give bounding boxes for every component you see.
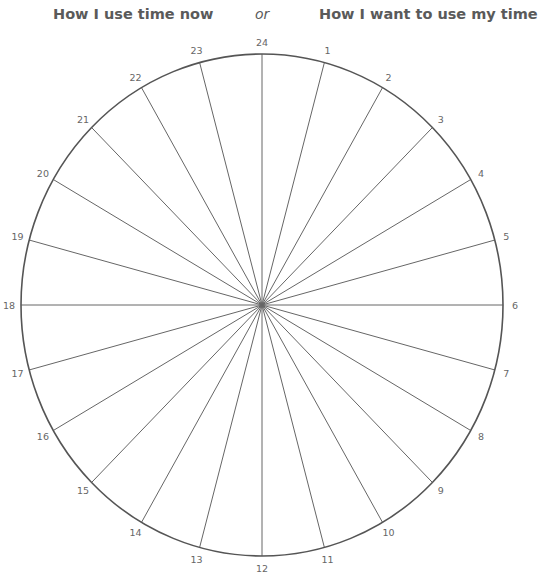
spoke-4 [262,180,471,306]
hour-label-24: 24 [256,37,268,48]
spoke-22 [142,88,263,305]
spoke-23 [200,63,262,305]
spoke-21 [92,128,262,305]
hour-label-9: 9 [438,485,444,496]
spoke-11 [262,305,324,547]
hour-label-7: 7 [503,368,509,379]
spoke-10 [262,305,383,522]
hour-label-17: 17 [12,368,24,379]
spoke-17 [29,305,262,370]
hour-label-23: 23 [190,45,202,56]
hour-label-15: 15 [77,485,89,496]
hour-label-6: 6 [512,300,518,311]
spoke-3 [262,128,432,305]
spoke-14 [142,305,263,522]
spoke-1 [262,63,324,305]
spoke-7 [262,305,495,370]
hour-label-3: 3 [438,114,444,125]
hour-label-4: 4 [478,168,484,179]
hour-label-2: 2 [385,72,391,83]
spoke-19 [29,240,262,305]
hour-label-18: 18 [3,300,15,311]
wheel-spokes [21,54,503,556]
hour-label-16: 16 [37,431,49,442]
hour-label-13: 13 [190,554,202,565]
spoke-2 [262,88,383,305]
spoke-16 [53,305,262,431]
spoke-5 [262,240,495,305]
hour-label-11: 11 [321,554,333,565]
spoke-20 [53,180,262,306]
spoke-15 [92,305,262,482]
hour-label-21: 21 [77,114,89,125]
spoke-13 [200,305,262,547]
hour-label-12: 12 [256,563,268,574]
spoke-8 [262,305,471,431]
hour-label-22: 22 [129,72,141,83]
hour-label-8: 8 [478,431,484,442]
hour-label-1: 1 [324,45,330,56]
hour-label-10: 10 [382,527,394,538]
hour-label-14: 14 [129,527,141,538]
hour-label-5: 5 [503,231,509,242]
hour-label-19: 19 [12,231,24,242]
spoke-9 [262,305,432,482]
hour-label-20: 20 [37,168,49,179]
